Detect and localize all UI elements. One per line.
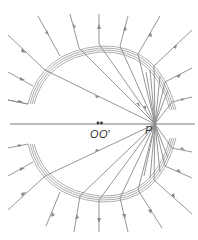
label-origin: O (90, 128, 99, 140)
origin-dot (97, 122, 100, 125)
field-lines-lower (8, 124, 192, 232)
field-line-diagram: O O′ P (0, 0, 198, 240)
field-lines-upper (8, 14, 192, 124)
origin-prime-dot (100, 122, 103, 125)
label-point-p: P (145, 124, 153, 136)
label-origin-prime: O′ (99, 128, 111, 140)
